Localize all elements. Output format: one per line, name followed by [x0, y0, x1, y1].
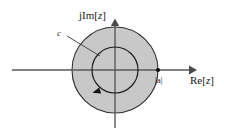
real-axis-label-suffix: ]: [210, 74, 214, 86]
imaginary-axis-label-suffix: ]: [102, 9, 106, 21]
real-axis-label: Re[z]: [190, 74, 214, 86]
dot-marker-icon: [156, 68, 160, 72]
imaginary-axis-label: jIm[z]: [78, 9, 106, 21]
imaginary-axis-label-prefix: jIm[: [78, 9, 98, 21]
complex-plane-canvas: jIm[z] Re[z] c |a|: [0, 0, 225, 134]
contour-label: c: [57, 28, 61, 38]
complex-plane-figure: jIm[z] Re[z] c |a|: [0, 0, 225, 134]
pole-magnitude-label: |a|: [155, 75, 163, 85]
real-axis-label-prefix: Re[: [190, 74, 206, 86]
